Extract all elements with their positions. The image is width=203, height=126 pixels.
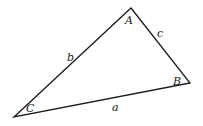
- side-label-a: a: [112, 101, 119, 114]
- triangle-diagram: A B C c b a: [0, 0, 203, 126]
- vertex-label-C: C: [26, 102, 35, 115]
- vertex-label-A: A: [124, 14, 133, 27]
- triangle-shape: [14, 8, 190, 117]
- side-label-b: b: [67, 51, 74, 64]
- vertex-label-B: B: [172, 75, 181, 88]
- side-label-c: c: [157, 27, 163, 40]
